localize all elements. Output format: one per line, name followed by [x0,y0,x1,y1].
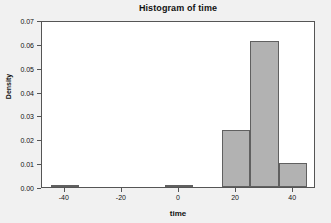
x-axis: time -40-2002040 [0,188,331,223]
y-tick-label: 0.03 [20,113,34,120]
histogram-bar [165,185,194,187]
histogram-bar [279,163,308,187]
x-tick-label: 0 [176,194,180,201]
y-tick-label: 0.02 [20,137,34,144]
page-title: Histogram of time [41,3,315,13]
y-tick-label: 0.04 [20,89,34,96]
x-tick-mark [235,188,236,192]
y-tick-mark [37,93,41,94]
x-axis-title: time [41,209,315,218]
plot-panel [41,21,315,188]
y-tick-mark [37,45,41,46]
x-tick-mark [64,188,65,192]
x-tick-label: -40 [59,194,69,201]
histogram-bar [51,185,80,187]
y-tick-mark [37,116,41,117]
x-tick-label: 20 [231,194,239,201]
y-tick-label: 0.06 [20,41,34,48]
bars-container [42,22,314,187]
x-tick-mark [121,188,122,192]
x-tick-label: 40 [288,194,296,201]
y-tick-mark [37,164,41,165]
x-tick-mark [178,188,179,192]
histogram-bar [222,130,251,187]
y-axis-title: Density [5,57,12,117]
y-tick-mark [37,21,41,22]
y-tick-label: 0.05 [20,65,34,72]
histogram-figure: Histogram of time 0.000.010.020.030.040.… [0,0,331,223]
x-tick-mark [292,188,293,192]
y-tick-label: 0.01 [20,161,34,168]
histogram-bar [250,41,279,187]
y-tick-label: 0.07 [20,18,34,25]
y-tick-mark [37,69,41,70]
y-tick-mark [37,140,41,141]
x-tick-label: -20 [116,194,126,201]
